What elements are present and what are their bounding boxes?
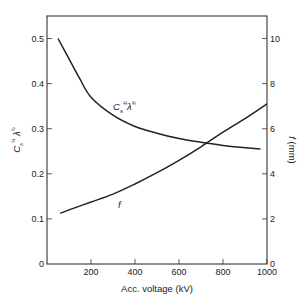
right-y-tick-label: 4 xyxy=(270,169,275,179)
left-y-tick-label: 0.5 xyxy=(31,34,44,44)
left-y-tick-label: 0.3 xyxy=(31,124,44,134)
x-axis-label: Acc. voltage (kV) xyxy=(121,283,193,294)
x-tick-label: 200 xyxy=(83,267,98,277)
series-f-line xyxy=(60,104,267,213)
right-y-tick-label: 8 xyxy=(270,79,275,89)
exponent-three-quarter: ¾ xyxy=(10,127,16,131)
left-y-tick-label: 0 xyxy=(39,259,44,269)
x-tick-label: 600 xyxy=(171,267,186,277)
x-tick-label: 400 xyxy=(127,267,142,277)
svg-text:Cs¼λ¾: Cs¼λ¾ xyxy=(113,100,136,114)
svg-text:Cs¼ λ¾: Cs¼ λ¾ xyxy=(10,127,24,153)
curve-label-c: Cs¼λ¾ xyxy=(113,100,136,114)
svg-text:f (mm): f (mm) xyxy=(287,136,298,163)
curve-label-f: f xyxy=(118,199,122,210)
left-y-axis-label: Cs¼ λ¾ xyxy=(10,127,24,153)
left-y-axis-ticks: 00.10.20.30.40.5 xyxy=(31,34,52,269)
s-subscript: s xyxy=(18,143,24,146)
right-y-tick-label: 6 xyxy=(270,124,275,134)
right-y-axis-ticks: 0246810 xyxy=(262,34,280,269)
series-group xyxy=(58,39,267,214)
left-y-tick-label: 0.2 xyxy=(31,169,44,179)
left-y-tick-label: 0.4 xyxy=(31,79,44,89)
series-cs-lambda-line xyxy=(58,39,260,150)
plot-frame xyxy=(47,16,267,264)
unit-mm: (mm) xyxy=(287,139,298,164)
x-tick-label: 800 xyxy=(215,267,230,277)
chart: 2004006008001000 00.10.20.30.40.5 024681… xyxy=(0,0,303,303)
right-y-axis-label: f (mm) xyxy=(287,136,298,163)
left-y-tick-label: 0.1 xyxy=(31,214,44,224)
right-y-tick-label: 0 xyxy=(270,259,275,269)
right-y-tick-label: 2 xyxy=(270,214,275,224)
right-y-tick-label: 10 xyxy=(270,34,280,44)
axes-frame xyxy=(47,16,267,264)
x-axis-ticks: 2004006008001000 xyxy=(83,259,277,277)
